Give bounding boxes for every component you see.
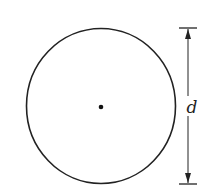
circle-diagram: d: [0, 0, 208, 196]
arrowhead-top: [185, 29, 191, 39]
diameter-label: d: [187, 97, 198, 117]
diameter-dimension: d: [179, 28, 198, 184]
arrowhead-bottom: [185, 173, 191, 183]
center-point: [99, 105, 104, 110]
